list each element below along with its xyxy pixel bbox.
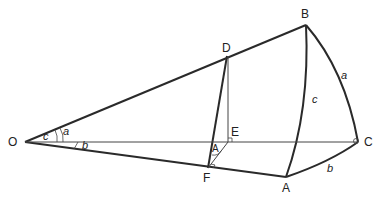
point-label-A: A xyxy=(282,182,290,194)
diagram: O B C A D E F a c b c a b A xyxy=(0,0,384,199)
angle-label-c: c xyxy=(43,131,49,142)
point-label-D: D xyxy=(222,42,231,54)
angle-arc-c xyxy=(55,130,57,142)
point-label-F: F xyxy=(203,172,210,184)
arc-c-BA xyxy=(286,25,307,177)
angle-label-a: a xyxy=(63,126,69,137)
angle-label-b: b xyxy=(82,140,88,151)
arc-label-c: c xyxy=(312,94,318,105)
line-OA xyxy=(25,142,286,177)
point-label-O: O xyxy=(8,136,17,148)
point-label-E: E xyxy=(231,126,239,138)
point-label-C: C xyxy=(364,136,373,148)
angle-label-A: A xyxy=(212,144,219,154)
arc-label-b: b xyxy=(327,163,333,174)
point-label-B: B xyxy=(301,8,309,20)
arc-a-BC xyxy=(306,25,358,142)
arc-b-AC xyxy=(286,142,358,177)
arc-label-a: a xyxy=(341,70,347,81)
